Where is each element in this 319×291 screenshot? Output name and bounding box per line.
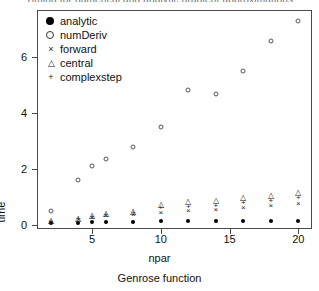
chart-subtitle: Genrose function <box>0 272 319 284</box>
data-point-numDeriv <box>103 157 108 162</box>
data-point-numDeriv <box>76 178 81 183</box>
data-point-complexstep: + <box>74 215 83 224</box>
data-point-analytic <box>296 219 300 223</box>
data-point-numDeriv <box>241 69 246 74</box>
data-point-complexstep: + <box>266 196 275 205</box>
legend-item-numDeriv: numDeriv <box>44 27 154 41</box>
data-point-complexstep: + <box>88 213 97 222</box>
x-tick-label: 20 <box>278 233 318 245</box>
legend-label: analytic <box>60 14 97 28</box>
x-tick-label: 10 <box>141 233 181 245</box>
legend-item-complexstep: +complexstep <box>44 69 154 83</box>
legend-marker-triangle-icon: △ <box>44 56 58 70</box>
legend-marker-open-circle-icon <box>44 28 58 42</box>
legend-item-central: △central <box>44 55 154 69</box>
data-point-complexstep: + <box>211 201 220 210</box>
data-point-complexstep: + <box>184 202 193 211</box>
y-tick-label: 4 <box>0 107 27 119</box>
data-point-numDeriv <box>268 38 273 43</box>
x-tick-label: 15 <box>210 233 250 245</box>
data-point-complexstep: + <box>239 199 248 208</box>
data-point-analytic <box>214 219 218 223</box>
data-point-analytic <box>131 220 135 224</box>
data-point-complexstep: + <box>294 194 303 203</box>
legend-label: central <box>60 56 93 70</box>
data-point-complexstep: + <box>101 211 110 220</box>
legend-marker-plus-icon: + <box>44 70 58 84</box>
data-point-numDeriv <box>48 208 53 213</box>
data-point-analytic <box>159 219 163 223</box>
filled-circle-icon <box>46 17 54 25</box>
legend-label: complexstep <box>60 70 122 84</box>
chart-figure: Timing for numerical and analytic gradie… <box>0 0 319 291</box>
data-point-analytic <box>186 219 190 223</box>
data-point-numDeriv <box>213 91 218 96</box>
legend-marker-filled-circle-icon <box>44 14 58 28</box>
y-tick-label: 2 <box>0 163 27 175</box>
y-axis-label: time <box>0 182 7 242</box>
data-point-numDeriv <box>131 144 136 149</box>
y-tick-label: 0 <box>0 219 27 231</box>
open-circle-icon <box>46 31 54 39</box>
plus-icon: + <box>44 70 58 84</box>
data-point-analytic <box>241 219 245 223</box>
data-point-complexstep: + <box>156 204 165 213</box>
data-point-complexstep: + <box>129 209 138 218</box>
data-point-complexstep: + <box>46 217 55 226</box>
legend-item-forward: ×forward <box>44 41 154 55</box>
cross-x-icon: × <box>44 42 58 56</box>
legend-item-analytic: analytic <box>44 13 154 27</box>
data-point-numDeriv <box>158 125 163 130</box>
x-tick-label: 5 <box>72 233 112 245</box>
data-point-numDeriv <box>90 164 95 169</box>
x-axis-label: npar <box>0 252 319 264</box>
legend-marker-cross-x-icon: × <box>44 42 58 56</box>
triangle-icon: △ <box>44 56 58 70</box>
chart-title: Timing for numerical and analytic gradie… <box>0 0 319 2</box>
data-point-numDeriv <box>296 19 301 24</box>
data-point-numDeriv <box>186 87 191 92</box>
data-point-analytic <box>269 219 273 223</box>
legend-label: forward <box>60 42 97 56</box>
y-tick-label: 6 <box>0 51 27 63</box>
chart-legend: analyticnumDeriv×forward△central+complex… <box>44 13 154 83</box>
legend-label: numDeriv <box>60 28 107 42</box>
